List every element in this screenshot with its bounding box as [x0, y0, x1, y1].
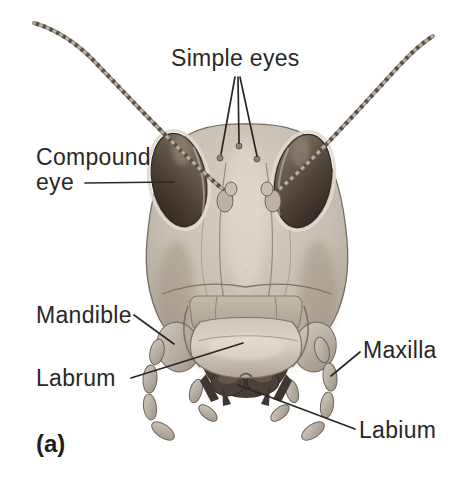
label-labium: Labium: [359, 418, 436, 443]
stipple-texture: [146, 124, 348, 374]
leader-maxilla: [331, 352, 360, 376]
label-mandible: Mandible: [36, 303, 132, 328]
anatomy-figure: Simple eyes Compound eye Mandible Labrum…: [0, 0, 466, 482]
leader-simple-eyes-middle: [238, 77, 239, 143]
label-compound-eye: Compound eye: [36, 145, 161, 195]
label-maxilla: Maxilla: [363, 338, 437, 363]
label-simple-eyes: Simple eyes: [171, 46, 300, 71]
panel-label: (a): [36, 430, 65, 458]
grasshopper-head-illustration: [0, 0, 466, 482]
label-labrum: Labrum: [36, 366, 116, 391]
